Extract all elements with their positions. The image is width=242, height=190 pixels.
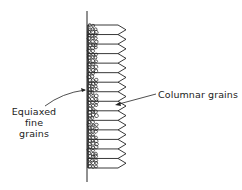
equiaxed-label-line-3: grains	[10, 128, 58, 139]
columnar-grains-label: Columnar grains	[158, 89, 238, 100]
equiaxed-label-line-2: fine	[10, 117, 58, 128]
equiaxed-label-line-1: Equiaxed	[10, 106, 58, 117]
label-arrows	[45, 88, 156, 106]
equiaxed-grain-zone	[87, 24, 99, 169]
equiaxed-grains-label: Equiaxed fine grains	[10, 106, 58, 139]
